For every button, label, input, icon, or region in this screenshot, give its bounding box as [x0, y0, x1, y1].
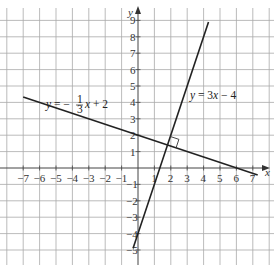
y-axis-arrow-icon — [135, 6, 141, 14]
x-tick-label: 3 — [184, 172, 190, 184]
x-tick-label: 6 — [233, 172, 239, 184]
y-tick-label: −1 — [126, 178, 138, 190]
y-tick-label: 7 — [130, 47, 136, 59]
y-tick-label: 5 — [130, 80, 136, 92]
x-axis-label: x — [264, 166, 270, 178]
equation-label-line1: y = − 1 3 x + 2 — [45, 93, 108, 115]
x-tick-label: 4 — [201, 172, 207, 184]
y-tick-label: 2 — [130, 129, 136, 141]
graph-figure: −7−6−5−4−3−2−11234567−5−4−3−2−1123456789… — [0, 0, 274, 265]
eq1-const: + 2 — [90, 98, 108, 110]
x-tick-label: −2 — [99, 172, 111, 184]
x-tick-label: −5 — [50, 172, 62, 184]
y-tick-label: 6 — [130, 64, 136, 76]
y-tick-label: 1 — [130, 146, 136, 158]
eq1-frac-den: 3 — [77, 103, 83, 115]
x-tick-label: −4 — [66, 172, 78, 184]
x-tick-label: 5 — [217, 172, 223, 184]
x-tick-label: −6 — [34, 172, 46, 184]
y-tick-label: 4 — [130, 96, 136, 108]
eq1-equals: = − — [51, 98, 70, 110]
svg-text:x + 2: x + 2 — [84, 98, 108, 110]
y-tick-label: −3 — [126, 211, 138, 223]
equation-label-line2: y = 3x − 4 — [189, 89, 236, 102]
y-axis-label: y — [127, 6, 133, 18]
x-tick-label: 2 — [168, 172, 174, 184]
x-tick-label: −7 — [17, 172, 29, 184]
y-tick-label: −5 — [126, 244, 138, 256]
x-tick-label: −3 — [83, 172, 95, 184]
svg-text:y = 3x − 4: y = 3x − 4 — [189, 89, 236, 102]
y-tick-label: 8 — [130, 31, 136, 43]
y-tick-label: −2 — [126, 195, 138, 207]
coordinate-plane: −7−6−5−4−3−2−11234567−5−4−3−2−1123456789… — [0, 0, 274, 265]
grid-lines — [0, 8, 274, 265]
svg-text:y = −: y = − — [45, 98, 70, 111]
y-tick-label: 3 — [130, 113, 136, 125]
